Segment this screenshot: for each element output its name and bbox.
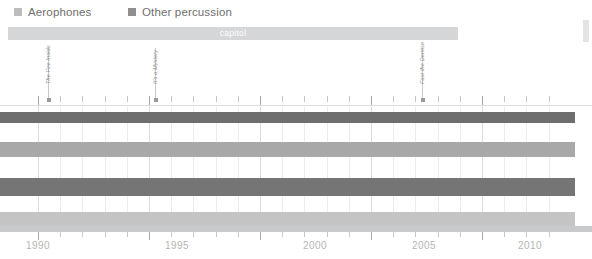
- plot-gridline: [304, 106, 305, 226]
- top-axis-tick: [327, 96, 328, 102]
- plot-gridline: [127, 106, 128, 226]
- top-axis-tick: [460, 96, 461, 102]
- axis-tick-label: 2000: [303, 240, 327, 251]
- bottom-axis-tick: [549, 232, 550, 237]
- legend-item[interactable]: Other percussion: [128, 4, 232, 20]
- bottom-axis-tick: [415, 232, 416, 237]
- plot-gridline: [371, 106, 372, 226]
- top-axis-tick: [482, 96, 483, 105]
- axis-tick-label: 2010: [518, 240, 542, 251]
- bottom-axis-tick: [371, 232, 372, 240]
- top-axis-tick: [438, 96, 439, 102]
- bottom-axis-tick: [327, 232, 328, 237]
- legend-label: Aerophones: [28, 6, 92, 18]
- bottom-axis-tick: [526, 232, 527, 237]
- bottom-axis-tick: [38, 232, 39, 240]
- plot-gridline: [393, 106, 394, 226]
- annotation-label: It's a Mystery: [152, 50, 158, 84]
- bottom-axis-tick: [82, 232, 83, 237]
- bottom-axis-tick: [460, 232, 461, 237]
- annotation-label: The Fire Inside: [45, 45, 51, 84]
- bottom-axis-tick: [171, 232, 172, 237]
- plot-gridline: [415, 106, 416, 226]
- top-tick-axis: [0, 96, 592, 106]
- top-axis-tick: [38, 96, 39, 105]
- top-axis-tick: [171, 96, 172, 102]
- bottom-axis-tick: [282, 232, 283, 237]
- bottom-axis-tick: [438, 232, 439, 237]
- bottom-axis-tick: [349, 232, 350, 237]
- plot-gridline: [526, 106, 527, 226]
- top-axis-tick: [393, 96, 394, 102]
- plot-gridline: [193, 106, 194, 226]
- plot-gridline: [171, 106, 172, 226]
- plot-gridline: [260, 106, 261, 226]
- top-axis-tick: [193, 96, 194, 102]
- bottom-axis-tick: [149, 232, 150, 240]
- plot-gridline: [327, 106, 328, 226]
- plot-gridline: [438, 106, 439, 226]
- annotation-label: Fast the Demise: [419, 42, 425, 84]
- series-band[interactable]: [0, 112, 575, 123]
- top-axis-tick: [549, 96, 550, 102]
- bottom-axis: 19901995200020052010: [0, 226, 592, 259]
- plot-gridline: [504, 106, 505, 226]
- top-axis-tick: [82, 96, 83, 102]
- plot-area[interactable]: [0, 106, 592, 226]
- top-axis-tick: [149, 96, 150, 105]
- bottom-axis-tick: [504, 232, 505, 237]
- top-axis-tick: [504, 96, 505, 102]
- plot-gridline: [349, 106, 350, 226]
- bottom-axis-tick: [238, 232, 239, 237]
- top-axis-tick: [238, 96, 239, 102]
- plot-gridline: [282, 106, 283, 226]
- bottom-axis-tick: [304, 232, 305, 237]
- axis-tick-label: 1995: [165, 240, 189, 251]
- bottom-axis-tick: [193, 232, 194, 237]
- plot-gridline: [82, 106, 83, 226]
- axis-tick-label: 2005: [412, 240, 436, 251]
- legend-swatch-icon: [14, 8, 22, 16]
- top-axis-tick: [260, 96, 261, 105]
- bottom-axis-tick: [260, 232, 261, 240]
- plot-gridline: [238, 106, 239, 226]
- scrollbar-thumb[interactable]: [583, 20, 589, 42]
- top-axis-tick: [526, 96, 527, 102]
- plot-gridline: [549, 106, 550, 226]
- bottom-axis-tick: [60, 232, 61, 237]
- legend-label: Other percussion: [142, 6, 232, 18]
- top-axis-tick: [304, 96, 305, 102]
- top-axis-tick: [371, 96, 372, 105]
- top-axis-tick: [349, 96, 350, 102]
- series-band[interactable]: [0, 142, 575, 157]
- top-axis-tick: [60, 96, 61, 102]
- bottom-axis-tick: [482, 232, 483, 240]
- bottom-axis-tick: [105, 232, 106, 237]
- top-axis-tick: [127, 96, 128, 102]
- plot-gridline: [460, 106, 461, 226]
- top-axis-tick: [282, 96, 283, 102]
- bottom-axis-tick: [127, 232, 128, 237]
- plot-gridline: [38, 106, 39, 226]
- release-label-text: capitol: [8, 27, 458, 40]
- axis-tick-label: 1990: [26, 240, 50, 251]
- annotation-markers: The Fire InsideIt's a MysteryFast the De…: [0, 40, 592, 102]
- top-axis-tick: [415, 96, 416, 102]
- top-axis-tick: [216, 96, 217, 102]
- plot-gridline: [482, 106, 483, 226]
- legend-item[interactable]: Aerophones: [14, 4, 92, 20]
- bottom-axis-tick: [393, 232, 394, 237]
- plot-gridline: [60, 106, 61, 226]
- plot-gridline: [105, 106, 106, 226]
- series-band[interactable]: [0, 212, 575, 226]
- bottom-axis-tick: [216, 232, 217, 237]
- release-label-band-row: capitol: [0, 27, 592, 40]
- top-axis-tick: [105, 96, 106, 102]
- plot-gridline: [216, 106, 217, 226]
- series-band[interactable]: [0, 178, 575, 196]
- legend-swatch-icon: [128, 8, 136, 16]
- chart-legend: AerophonesOther percussion: [0, 0, 592, 24]
- plot-gridline: [149, 106, 150, 226]
